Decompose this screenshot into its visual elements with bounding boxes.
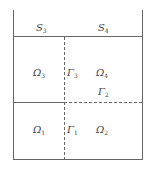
label-omega4: Ω4 <box>96 68 108 81</box>
label-gamma1: Γ1 <box>67 125 78 138</box>
domain-diagram <box>0 0 153 174</box>
label-s3: S3 <box>36 23 47 36</box>
label-omega3: Ω3 <box>33 68 45 81</box>
label-gamma2: Γ2 <box>98 87 109 100</box>
label-omega2: Ω2 <box>96 125 108 138</box>
label-omega1: Ω1 <box>33 125 45 138</box>
label-gamma3: Γ3 <box>67 68 78 81</box>
label-s4: S4 <box>98 23 109 36</box>
